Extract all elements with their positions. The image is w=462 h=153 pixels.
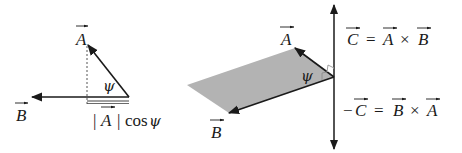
eq-bot-times: ×	[410, 101, 420, 120]
projection-diagram: A B ψ | A | cos ψ	[15, 26, 161, 130]
abs-open: |	[93, 111, 96, 130]
projection-formula: | A | cos ψ	[93, 107, 161, 130]
eq-bot-equals: =	[374, 101, 384, 120]
label-vector-b-3d: B	[210, 120, 224, 142]
label-b-text: B	[16, 106, 27, 125]
eq-bot-c: C	[355, 101, 367, 120]
eq-bot-a: A	[426, 101, 438, 120]
cross-product-diagram: ψ A B C = A × B − C = B	[187, 5, 440, 149]
eq-top-equals: =	[366, 30, 376, 49]
eq-bot-minus: −	[343, 101, 353, 120]
equation-c-equals-a-cross-b: C = A × B	[346, 28, 431, 49]
eq-top-c: C	[347, 30, 359, 49]
cos-angle: ψ	[149, 112, 161, 130]
eq-top-b: B	[418, 30, 429, 49]
equation-minus-c-equals-b-cross-a: − C = B × A	[343, 99, 440, 120]
angle-psi-label: ψ	[103, 77, 115, 95]
label-vector-a-3d: A	[280, 27, 294, 49]
eq-top-times: ×	[400, 30, 410, 49]
abs-close: |	[117, 111, 120, 130]
projection-vec-a: A	[100, 111, 112, 130]
label-a-text-3d: A	[280, 30, 292, 49]
label-b-text-3d: B	[211, 123, 222, 142]
label-vector-a: A	[75, 26, 88, 49]
right-angle-marker-top	[327, 65, 334, 72]
angle-psi-label-3d: ψ	[301, 67, 313, 85]
cross-product-figure: A B ψ | A | cos ψ ψ	[0, 0, 462, 153]
label-a-text: A	[75, 30, 87, 49]
label-vector-b: B	[15, 103, 28, 125]
eq-bot-b: B	[393, 101, 404, 120]
cos-func: cos	[125, 111, 148, 130]
eq-top-a: A	[382, 30, 394, 49]
